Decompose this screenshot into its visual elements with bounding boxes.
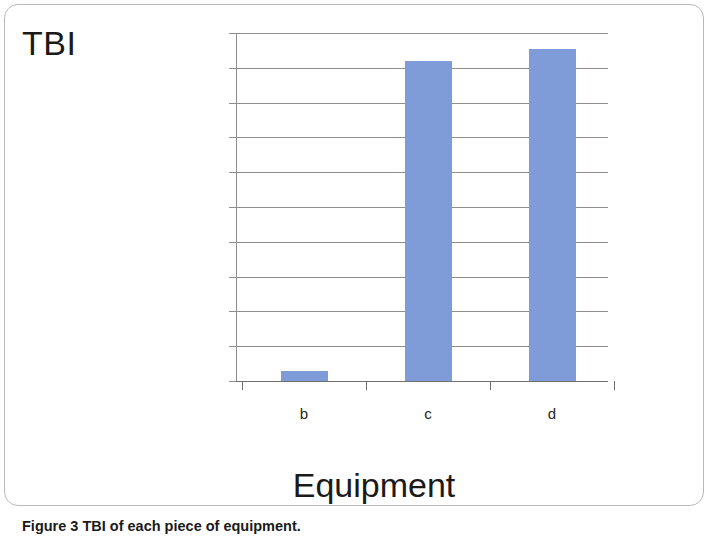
y-axis-tick	[229, 381, 236, 382]
x-axis-tick	[366, 381, 367, 390]
plot-area	[236, 33, 608, 381]
y-axis-tick	[229, 207, 236, 208]
x-axis-tick	[490, 381, 491, 390]
y-axis-tick	[229, 103, 236, 104]
gridline	[236, 33, 608, 34]
x-axis-category-label: c	[398, 406, 458, 421]
x-axis-tick	[242, 381, 243, 390]
bar	[405, 61, 452, 381]
y-axis-tick	[229, 311, 236, 312]
figure-caption: Figure 3 TBI of each piece of equipment.	[22, 518, 301, 535]
caption-label: Figure 3	[22, 518, 78, 534]
y-axis-tick	[229, 172, 236, 173]
x-axis-title: Equipment	[0, 468, 608, 502]
x-axis-category-label: b	[274, 406, 334, 421]
y-axis-tick	[229, 68, 236, 69]
y-axis-tick	[229, 277, 236, 278]
bar	[529, 49, 576, 381]
x-axis-tick	[614, 381, 615, 390]
y-axis-tick	[229, 346, 236, 347]
chart-title: TBI	[22, 26, 76, 60]
bar	[281, 371, 328, 381]
x-axis-category-label: d	[522, 406, 582, 421]
y-axis-tick	[229, 137, 236, 138]
y-axis-tick	[229, 242, 236, 243]
gridline	[236, 381, 608, 382]
caption-text: TBI of each piece of equipment.	[82, 518, 300, 534]
y-axis-tick	[229, 33, 236, 34]
